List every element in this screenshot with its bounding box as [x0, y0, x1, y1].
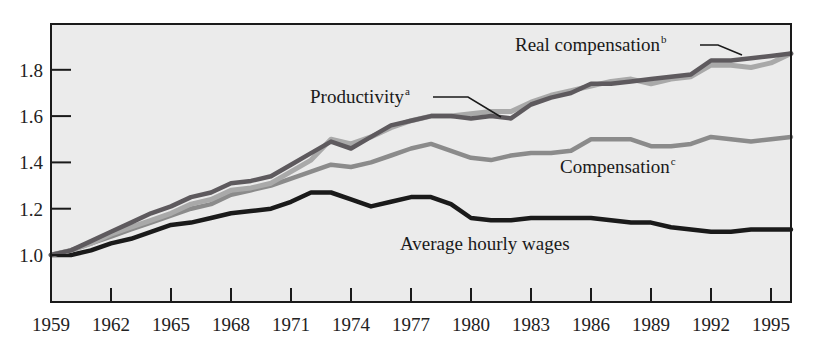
- x-tick-label: 1989: [632, 314, 670, 335]
- x-tick-label: 1965: [152, 314, 190, 335]
- plot-area: [51, 24, 791, 302]
- x-tick-label: 1962: [92, 314, 130, 335]
- x-tick-label: 1995: [752, 314, 790, 335]
- x-tick-label: 1992: [692, 314, 730, 335]
- y-tick-label: 1.2: [19, 199, 43, 220]
- x-tick-label: 1983: [512, 314, 550, 335]
- x-tick-label: 1986: [572, 314, 610, 335]
- series-label: Compensationc: [560, 155, 676, 177]
- series-label: Productivitya: [310, 85, 410, 107]
- y-tick-label: 1.8: [19, 60, 43, 81]
- x-tick-label: 1968: [212, 314, 250, 335]
- series-label: Real compensationb: [515, 33, 667, 55]
- line-chart: 1.01.21.41.61.8 195919621965196819711974…: [0, 0, 814, 347]
- x-tick-label: 1980: [452, 314, 490, 335]
- y-tick-label: 1.4: [19, 152, 43, 173]
- x-tick-label: 1977: [392, 314, 430, 335]
- series-label: Average hourly wages: [400, 233, 570, 254]
- x-tick-label: 1971: [272, 314, 310, 335]
- x-tick-label: 1959: [32, 314, 70, 335]
- x-tick-label: 1974: [332, 314, 371, 335]
- y-tick-label: 1.6: [19, 106, 43, 127]
- y-tick-label: 1.0: [19, 245, 43, 266]
